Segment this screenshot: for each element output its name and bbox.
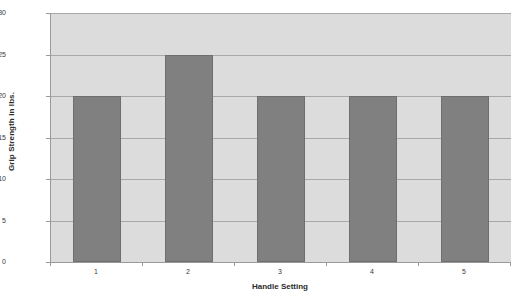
bar-chart: Grip Strength in lbs. 051015202530 12345… [0, 0, 525, 306]
x-tick-mark [326, 262, 327, 266]
x-tick-label: 2 [168, 268, 208, 275]
bar [165, 55, 213, 263]
x-tick-label: 4 [352, 268, 392, 275]
x-tick-label: 1 [76, 268, 116, 275]
plot-area [50, 13, 511, 263]
x-axis-title: Handle Setting [50, 282, 510, 291]
x-tick-mark [510, 262, 511, 266]
y-tick-label: 5 [0, 217, 6, 224]
x-tick-mark [234, 262, 235, 266]
y-tick-label: 30 [0, 9, 6, 16]
x-tick-mark [50, 262, 51, 266]
x-tick-label: 5 [444, 268, 484, 275]
x-tick-mark [418, 262, 419, 266]
x-tick-mark [142, 262, 143, 266]
y-tick-label: 20 [0, 92, 6, 99]
gridline [51, 13, 511, 14]
bar [441, 96, 489, 262]
y-axis-title-label: Grip Strength in lbs. [7, 92, 16, 171]
y-tick-label: 15 [0, 134, 6, 141]
y-tick-label: 25 [0, 51, 6, 58]
bar [349, 96, 397, 262]
gridline [51, 55, 511, 56]
y-tick-label: 10 [0, 175, 6, 182]
y-tick-label: 0 [0, 258, 6, 265]
bar [73, 96, 121, 262]
x-tick-label: 3 [260, 268, 300, 275]
bar [257, 96, 305, 262]
